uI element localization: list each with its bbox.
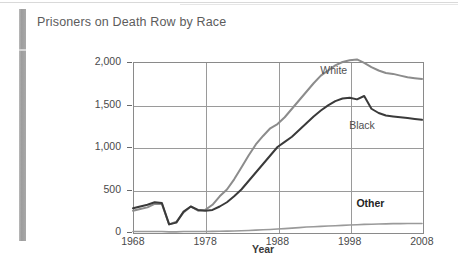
series-line-other [133, 224, 422, 232]
scanned-page: Prisoners on Death Row by Race 05001,000… [0, 0, 458, 256]
series-layer [0, 0, 458, 256]
series-label-black: Black [349, 119, 375, 131]
series-label-white: White [320, 64, 347, 76]
series-label-other: Other [356, 197, 384, 209]
x-axis-title: Year [252, 243, 274, 255]
